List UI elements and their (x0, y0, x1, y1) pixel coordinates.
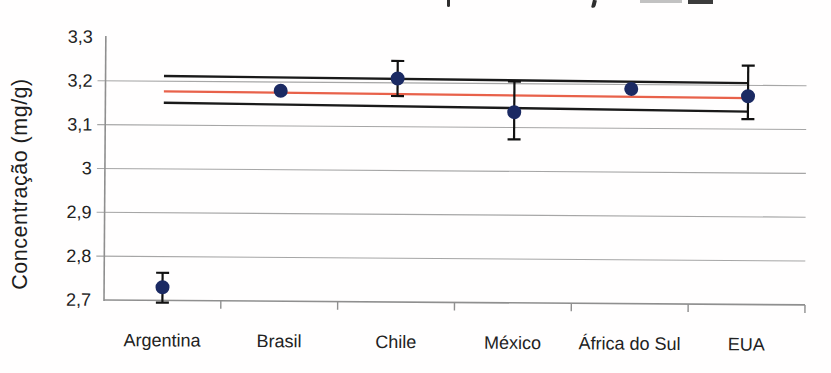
gridline (97, 125, 806, 130)
mean-line (164, 91, 748, 98)
y-tick-label: 2,8 (66, 246, 91, 266)
data-point (274, 84, 288, 98)
data-point (391, 71, 405, 85)
data-point (155, 280, 169, 294)
data-point (507, 105, 521, 119)
gridline (97, 168, 806, 173)
x-category-label: Argentina (124, 330, 202, 351)
x-category-label: Brasil (256, 331, 301, 351)
x-category-label: África do Sul (578, 333, 680, 354)
cropped-text-fragment (640, 0, 682, 3)
plot-area: 3,33,23,132,92,82,7ArgentinaBrasilChileM… (66, 27, 807, 355)
y-axis-line (104, 36, 106, 301)
y-tick-label: 3,1 (67, 114, 92, 134)
y-tick-label: 3,2 (67, 71, 92, 91)
y-tick-label: 2,7 (66, 290, 91, 310)
data-point (741, 89, 755, 103)
scanned-chart-figure: Concentração (mg/g) 3,33,23,132,92,82,7A… (0, 0, 831, 373)
lower-limit-line (164, 103, 748, 112)
x-category-label: Chile (375, 332, 416, 352)
cropped-text-fragment (688, 0, 713, 4)
y-tick-label: 2,9 (67, 202, 92, 222)
cropped-text-fragment (447, 0, 450, 7)
y-tick-label: 3,3 (68, 27, 93, 47)
gridline (96, 256, 805, 261)
y-axis-title: Concentração (mg/g) (8, 78, 32, 289)
data-point (624, 82, 638, 96)
concentration-scatter-chart: Concentração (mg/g) 3,33,23,132,92,82,7A… (0, 0, 831, 373)
x-category-label: México (484, 333, 541, 353)
y-tick-label: 3 (82, 158, 92, 178)
x-category-label: EUA (728, 334, 765, 354)
gridline (97, 212, 806, 217)
